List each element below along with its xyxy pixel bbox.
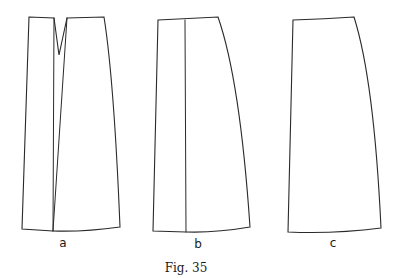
piece-b-inner-line [185, 20, 186, 232]
pattern-piece-b: b [153, 17, 250, 251]
pattern-piece-c: c [288, 17, 381, 250]
piece-c-outline [288, 17, 381, 233]
figure-caption: Fig. 35 [165, 261, 208, 275]
piece-a-outline [22, 17, 120, 231]
piece-b-outline [153, 17, 250, 232]
piece-a-inner-line-1 [53, 18, 54, 231]
pattern-piece-a: a [22, 17, 120, 250]
piece-c-label: c [330, 236, 337, 250]
piece-a-label: a [59, 236, 66, 250]
piece-b-label: b [194, 237, 202, 251]
pattern-figure: a b c Fig. 35 [0, 0, 401, 278]
